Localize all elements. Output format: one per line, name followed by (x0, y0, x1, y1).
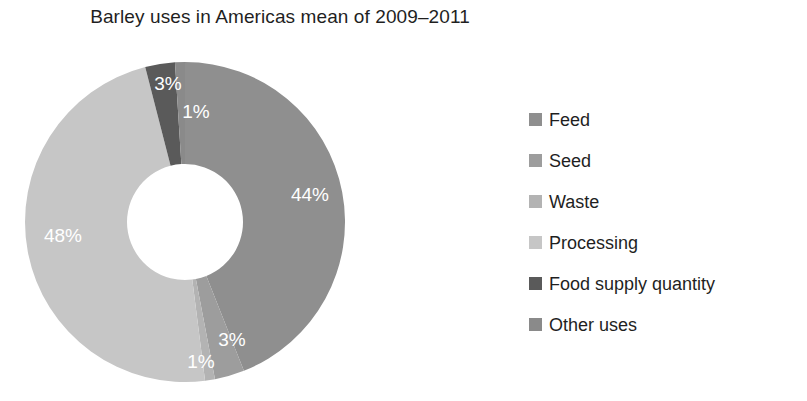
legend-swatch-icon (529, 154, 542, 167)
legend-swatch-icon (529, 195, 542, 208)
donut-chart-svg: 44%3%1%48%3%1% (25, 62, 345, 382)
legend-item-label: Feed (549, 111, 590, 129)
legend-item-label: Processing (549, 234, 638, 252)
chart-legend: Feed Seed Waste Processing Food supply q… (529, 99, 794, 345)
legend-item-label: Food supply quantity (549, 275, 715, 293)
legend-item-processing[interactable]: Processing (529, 222, 794, 263)
legend-item-label: Waste (549, 193, 599, 211)
donut-slice-label: 3% (154, 73, 182, 94)
legend-item-seed[interactable]: Seed (529, 140, 794, 181)
donut-slice-label: 3% (218, 329, 246, 350)
legend-item-feed[interactable]: Feed (529, 99, 794, 140)
legend-swatch-icon (529, 113, 542, 126)
chart-title: Barley uses in Americas mean of 2009–201… (0, 6, 560, 28)
legend-swatch-icon (529, 236, 542, 249)
legend-item-food-supply-quantity[interactable]: Food supply quantity (529, 263, 794, 304)
legend-swatch-icon (529, 318, 542, 331)
donut-slice-label: 1% (187, 351, 215, 372)
legend-item-label: Other uses (549, 316, 637, 334)
donut-chart: 44%3%1%48%3%1% (25, 62, 345, 382)
legend-item-other-uses[interactable]: Other uses (529, 304, 794, 345)
donut-slice-label: 1% (182, 101, 210, 122)
legend-swatch-icon (529, 277, 542, 290)
donut-slice-label: 44% (291, 184, 329, 205)
donut-slice-label: 48% (44, 225, 82, 246)
legend-item-waste[interactable]: Waste (529, 181, 794, 222)
legend-item-label: Seed (549, 152, 591, 170)
